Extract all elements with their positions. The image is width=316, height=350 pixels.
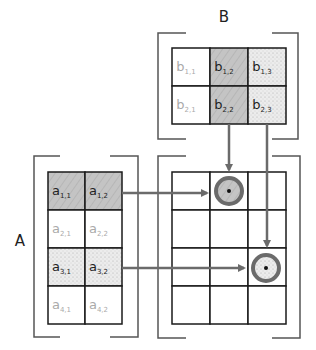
- matrix-c-cell: [172, 172, 210, 210]
- matrix-c-cell: [172, 286, 210, 324]
- matrix-c-cell: [210, 286, 248, 324]
- matrix-c-cell: [172, 210, 210, 248]
- result-c12: [216, 178, 242, 204]
- result-c33: [253, 255, 279, 281]
- matrix-b-label: B: [219, 8, 229, 26]
- matrix-b: b1,1b1,2b1,3b2,1b2,2b2,3: [172, 48, 286, 124]
- matrix-a: a1,1a1,2a2,1a2,2a3,1a3,2a4,1a4,2: [48, 172, 122, 324]
- matrix-a-label: A: [15, 232, 26, 250]
- matrix-c-cell: [210, 210, 248, 248]
- matrix-c-cell: [248, 286, 286, 324]
- matrix-multiplication-diagram: B A b1,1b1,2b1,3b2,1b2,2b2,3 a1,1a1,2a2,…: [0, 0, 316, 350]
